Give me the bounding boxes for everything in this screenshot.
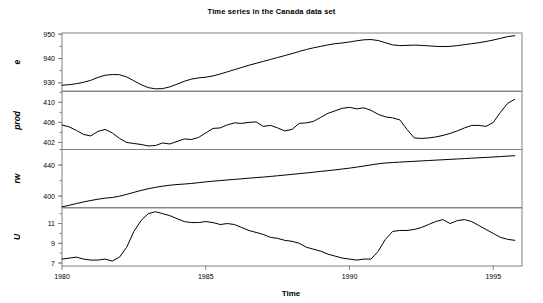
y-tick-label-U-7: 7 bbox=[51, 260, 55, 267]
chart-title: Time series in the Canada data set bbox=[208, 7, 336, 16]
y-tick-label-prod-406: 406 bbox=[43, 119, 55, 126]
chart-figure: Time series in the Canada data set 93094… bbox=[0, 0, 543, 303]
series-line-prod bbox=[62, 99, 515, 146]
y-tick-label-U-11: 11 bbox=[48, 220, 55, 227]
y-tick-label-prod-410: 410 bbox=[43, 99, 55, 106]
series-line-rw bbox=[62, 156, 515, 207]
panel-frame-e bbox=[62, 33, 522, 91]
y-tick-label-rw-400: 400 bbox=[43, 193, 55, 200]
x-tick-label-1990: 1990 bbox=[342, 273, 358, 280]
series-line-U bbox=[62, 212, 515, 261]
panel-rw: 400440rw bbox=[12, 150, 522, 208]
panel-U: 7911U bbox=[12, 208, 522, 267]
y-tick-label-rw-440: 440 bbox=[43, 162, 55, 169]
panel-frame-prod bbox=[62, 91, 522, 149]
y-tick-label-prod-402: 402 bbox=[43, 139, 55, 146]
time-series-plot: Time series in the Canada data set 93094… bbox=[0, 0, 543, 303]
panels-group: 930940950e402406410prod400440rw7911U1980… bbox=[12, 31, 522, 280]
panel-label-prod: prod bbox=[12, 110, 22, 131]
panel-label-e: e bbox=[12, 59, 22, 64]
y-tick-label-e-950: 950 bbox=[43, 31, 55, 38]
x-tick-label-1985: 1985 bbox=[198, 273, 214, 280]
panel-label-rw: rw bbox=[12, 172, 22, 183]
y-tick-label-e-930: 930 bbox=[43, 79, 55, 86]
x-axis-title: Time bbox=[282, 289, 301, 298]
panel-e: 930940950e bbox=[12, 31, 522, 92]
x-tick-label-1995: 1995 bbox=[485, 273, 501, 280]
panel-prod: 402406410prod bbox=[12, 91, 522, 149]
panel-label-U: U bbox=[12, 233, 22, 240]
y-tick-label-U-9: 9 bbox=[51, 240, 55, 247]
x-tick-label-1980: 1980 bbox=[54, 273, 70, 280]
panel-frame-rw bbox=[62, 150, 522, 208]
series-line-e bbox=[62, 36, 515, 89]
x-axis: 1980198519901995 bbox=[54, 266, 501, 280]
y-tick-label-e-940: 940 bbox=[43, 55, 55, 62]
